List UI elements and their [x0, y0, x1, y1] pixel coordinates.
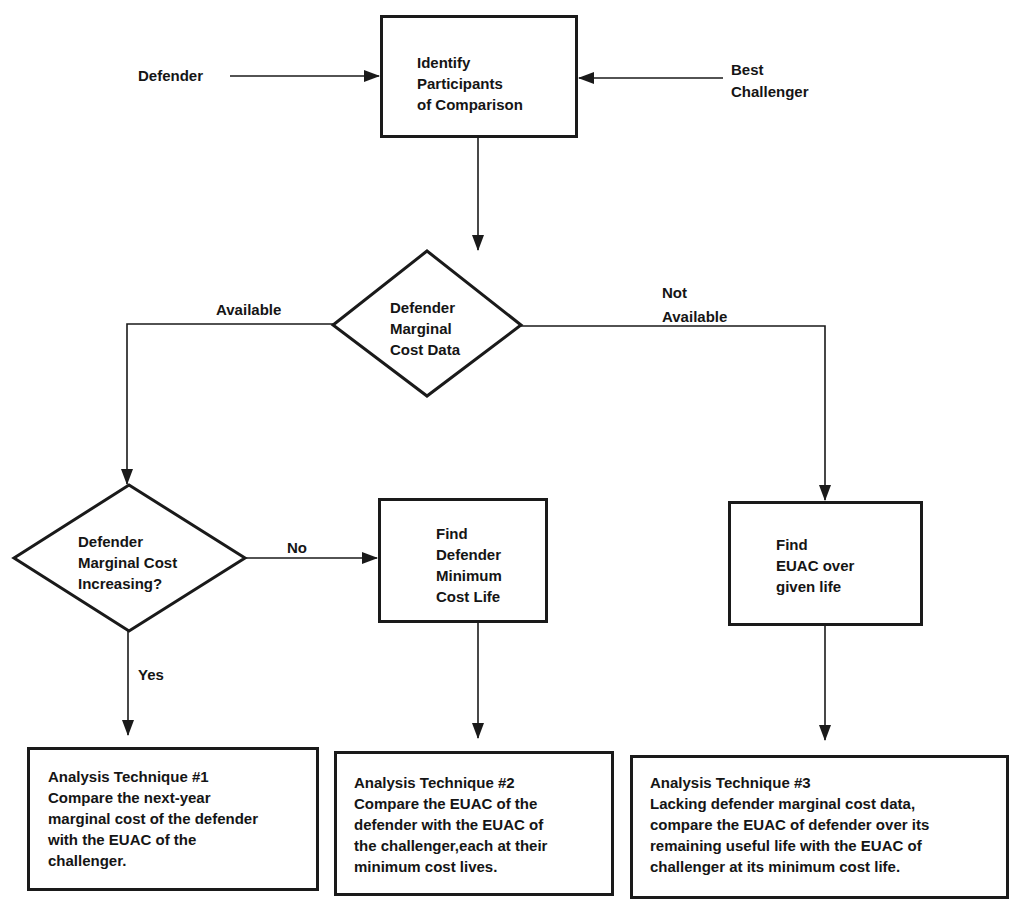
result-analysis-technique-1: Analysis Technique #1 Compare the next-y…	[27, 747, 319, 891]
technique-3-text: Analysis Technique #3 Lacking defender m…	[650, 772, 1006, 877]
edge-label-no: No	[287, 537, 307, 558]
process-find-min-cost-life: Find Defender Minimum Cost Life	[378, 498, 548, 623]
process-identify-participants: Identify Participants of Comparison	[380, 15, 578, 138]
decision-marginal-data-text: Defender Marginal Cost Data	[390, 297, 460, 360]
process-find-euac-text: Find EUAC over given life	[776, 534, 920, 597]
edge-available	[127, 324, 333, 484]
technique-1-text: Analysis Technique #1 Compare the next-y…	[48, 766, 316, 871]
result-analysis-technique-3: Analysis Technique #3 Lacking defender m…	[630, 755, 1009, 899]
input-best-challenger-label: Best Challenger	[731, 59, 809, 103]
edge-label-not-available: Not Available	[662, 281, 727, 329]
process-find-min-cost-life-text: Find Defender Minimum Cost Life	[436, 523, 545, 607]
edge-not-available	[521, 326, 825, 500]
technique-2-text: Analysis Technique #2 Compare the EUAC o…	[354, 772, 611, 877]
result-analysis-technique-2: Analysis Technique #2 Compare the EUAC o…	[334, 751, 614, 896]
edge-label-yes: Yes	[138, 664, 164, 685]
process-find-euac: Find EUAC over given life	[728, 501, 923, 626]
input-defender-label: Defender	[138, 65, 203, 86]
process-identify-text: Identify Participants of Comparison	[417, 52, 575, 115]
decision-marginal-increasing-text: Defender Marginal Cost Increasing?	[78, 531, 177, 594]
edge-label-available: Available	[216, 299, 281, 320]
